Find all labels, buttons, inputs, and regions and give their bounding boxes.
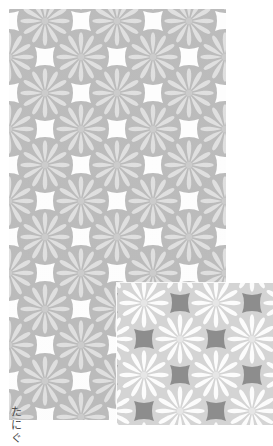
- roundel-center: [78, 270, 84, 276]
- roundel-center: [186, 90, 192, 96]
- roundel-center: [42, 162, 48, 168]
- dark-colorway-inset[interactable]: [117, 283, 273, 425]
- roundel-center: [141, 300, 147, 306]
- pattern-swatch-page: た に ぐ: [0, 0, 273, 446]
- roundel-center: [78, 54, 84, 60]
- roundel-center: [42, 306, 48, 312]
- roundel-center: [141, 372, 147, 378]
- roundel-center: [78, 198, 84, 204]
- inset-pattern-canvas: [117, 283, 273, 425]
- roundel-center: [213, 372, 219, 378]
- roundel-center: [114, 234, 120, 240]
- roundel-center: [177, 408, 183, 414]
- roundel-petal: [117, 337, 133, 341]
- roundel-center: [249, 408, 255, 414]
- caption-line-2: に: [11, 419, 37, 432]
- caption-line-1: た: [11, 406, 37, 419]
- roundel-petal: [117, 409, 133, 413]
- roundel-center: [78, 414, 84, 420]
- roundel-center: [150, 54, 156, 60]
- roundel-center: [249, 336, 255, 342]
- roundel-center: [150, 126, 156, 132]
- roundel-center: [42, 378, 48, 384]
- roundel-center: [186, 162, 192, 168]
- roundel-center: [186, 18, 192, 24]
- roundel-center: [78, 342, 84, 348]
- roundel-center: [150, 270, 156, 276]
- roundel-center: [42, 234, 48, 240]
- roundel-center: [114, 90, 120, 96]
- roundel-center: [114, 162, 120, 168]
- roundel-center: [177, 336, 183, 342]
- roundel-center: [42, 90, 48, 96]
- roundel-center: [150, 198, 156, 204]
- caption-line-3: ぐ: [11, 432, 37, 445]
- roundel-center: [213, 300, 219, 306]
- roundel-center: [114, 18, 120, 24]
- roundel-center: [78, 126, 84, 132]
- roundel-center: [186, 234, 192, 240]
- caption-text: た に ぐ: [11, 406, 37, 446]
- roundel-center: [42, 18, 48, 24]
